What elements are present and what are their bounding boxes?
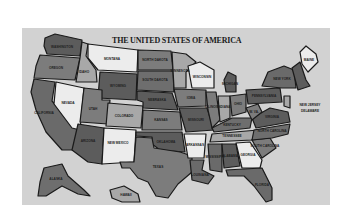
label-wisconsin: WISCONSIN	[193, 75, 212, 79]
label-tennessee: TENNESSEE	[222, 134, 241, 138]
label-south-dakota: SOUTH DAKOTA	[142, 78, 168, 82]
label-virginia: VIRGINIA	[265, 115, 280, 119]
state-alaska	[38, 164, 90, 196]
label-pennsylvania: PENNSYLVANIA	[252, 94, 277, 98]
label-new-jersey: NEW JERSEY	[300, 103, 322, 107]
state-arizona	[72, 124, 104, 164]
label-michigan: MICHIGAN	[222, 82, 239, 86]
label-washington: WASHINGTON	[51, 45, 74, 49]
state-indiana	[218, 96, 230, 122]
label-texas: TEXAS	[153, 165, 164, 169]
label-nevada: NEVADA	[61, 101, 75, 105]
label-hawaii: HAWAII	[120, 193, 131, 197]
label-arizona: ARIZONA	[81, 139, 96, 143]
label-nebraska: NEBRASKA	[148, 98, 167, 102]
label-kentucky: KENTUCKY	[223, 123, 242, 127]
label-ohio: OHIO	[234, 102, 243, 106]
label-alaska: ALASKA	[49, 177, 63, 181]
label-utah: UTAH	[89, 107, 98, 111]
label-georgia: GEORGIA	[240, 153, 256, 157]
state-new-mexico	[102, 128, 136, 164]
label-delaware: DELAWARE	[301, 109, 319, 113]
label-south-carolina: SOUTH CAROLINA	[251, 144, 281, 148]
label-idaho: IDAHO	[79, 70, 90, 74]
label-minnesota: MINNESOTA	[171, 69, 191, 73]
label-new-york: NEW YORK	[273, 77, 291, 81]
label-arkansas: ARKANSAS	[186, 143, 204, 147]
label-iowa: IOWA	[187, 96, 196, 100]
label-new-mexico: NEW MEXICO	[108, 141, 129, 145]
label-north-carolina: NORTH CAROLINA	[257, 129, 287, 133]
label-maine: MAINE	[304, 58, 314, 62]
label-montana: MONTANA	[104, 57, 121, 61]
label-louisiana: LOUISIANA	[191, 173, 209, 177]
label-indiana: INDIANA	[217, 105, 231, 109]
label-oklahoma: OKLAHOMA	[157, 140, 176, 144]
state-new-jersey	[284, 96, 290, 108]
label-wyoming: WYOMING	[110, 84, 126, 88]
label-kansas: KANSAS	[154, 118, 167, 122]
label-florida: FLORIDA	[255, 183, 270, 187]
label-north-dakota: NORTH DAKOTA	[142, 58, 168, 62]
label-missouri: MISSOURI	[188, 118, 204, 122]
label-colorado: COLORADO	[115, 114, 134, 118]
label-west-virginia: W. VA.	[249, 110, 259, 114]
map-title: THE UNITED STATES OF AMERICA	[112, 36, 242, 45]
us-map: THE UNITED STATES OF AMERICA WASHINGTO	[0, 0, 349, 215]
label-california: CALIFORNIA	[34, 111, 54, 115]
label-oregon: OREGON	[49, 66, 64, 70]
label-alabama: ALABAMA	[222, 154, 239, 158]
